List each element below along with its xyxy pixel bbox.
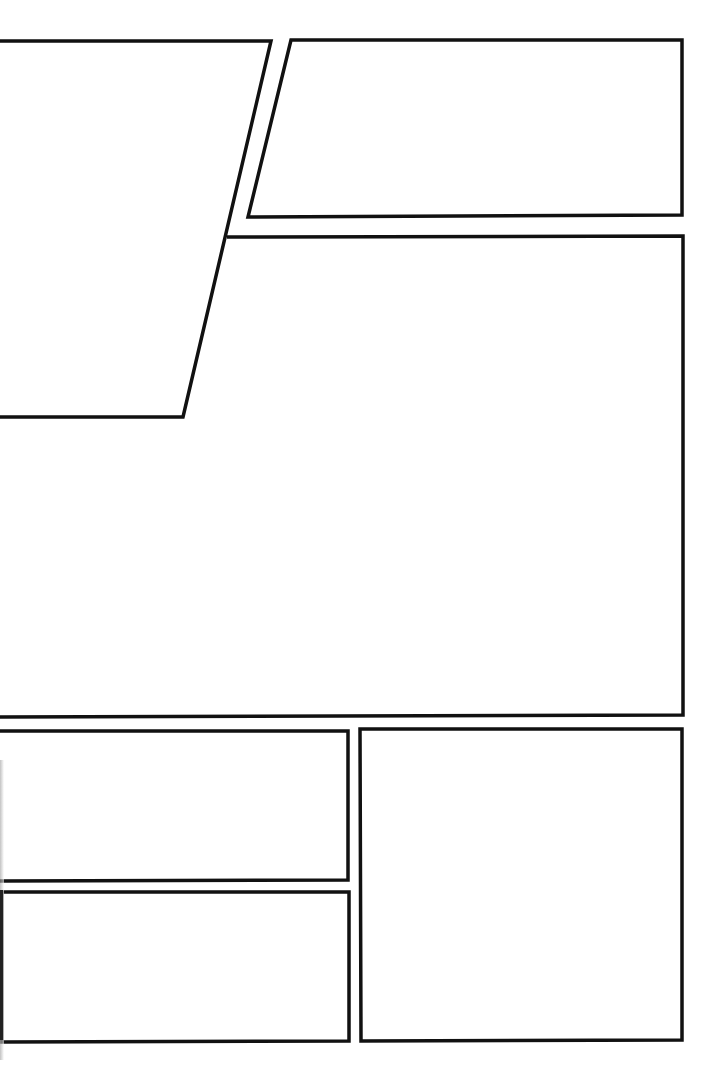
- panel-4: [0, 731, 348, 881]
- panel-layout: [0, 0, 722, 1078]
- panel-6: [360, 729, 682, 1041]
- panel-2: [248, 40, 682, 217]
- panel-5: [2, 892, 349, 1042]
- panel-1: [0, 41, 271, 417]
- panel-3: [0, 236, 683, 717]
- scan-edge-dark: [0, 890, 3, 1040]
- comic-page: [0, 0, 722, 1078]
